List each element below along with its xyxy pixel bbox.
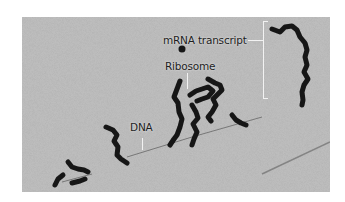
- dna-label: DNA: [130, 121, 153, 133]
- mrna-bracket-top: [263, 21, 268, 22]
- mrna-bracket-vertical: [263, 21, 264, 99]
- mrna-transcript-label: mRNA transcript: [163, 34, 247, 46]
- ribosome-leader-line: [187, 73, 188, 89]
- mrna-leader-line: [248, 40, 263, 41]
- ribosome-label: Ribosome: [165, 60, 215, 72]
- dna-leader-line: [142, 138, 143, 150]
- mrna-bracket-bottom: [263, 98, 268, 99]
- electron-micrograph: mRNA transcript Ribosome DNA: [22, 17, 330, 192]
